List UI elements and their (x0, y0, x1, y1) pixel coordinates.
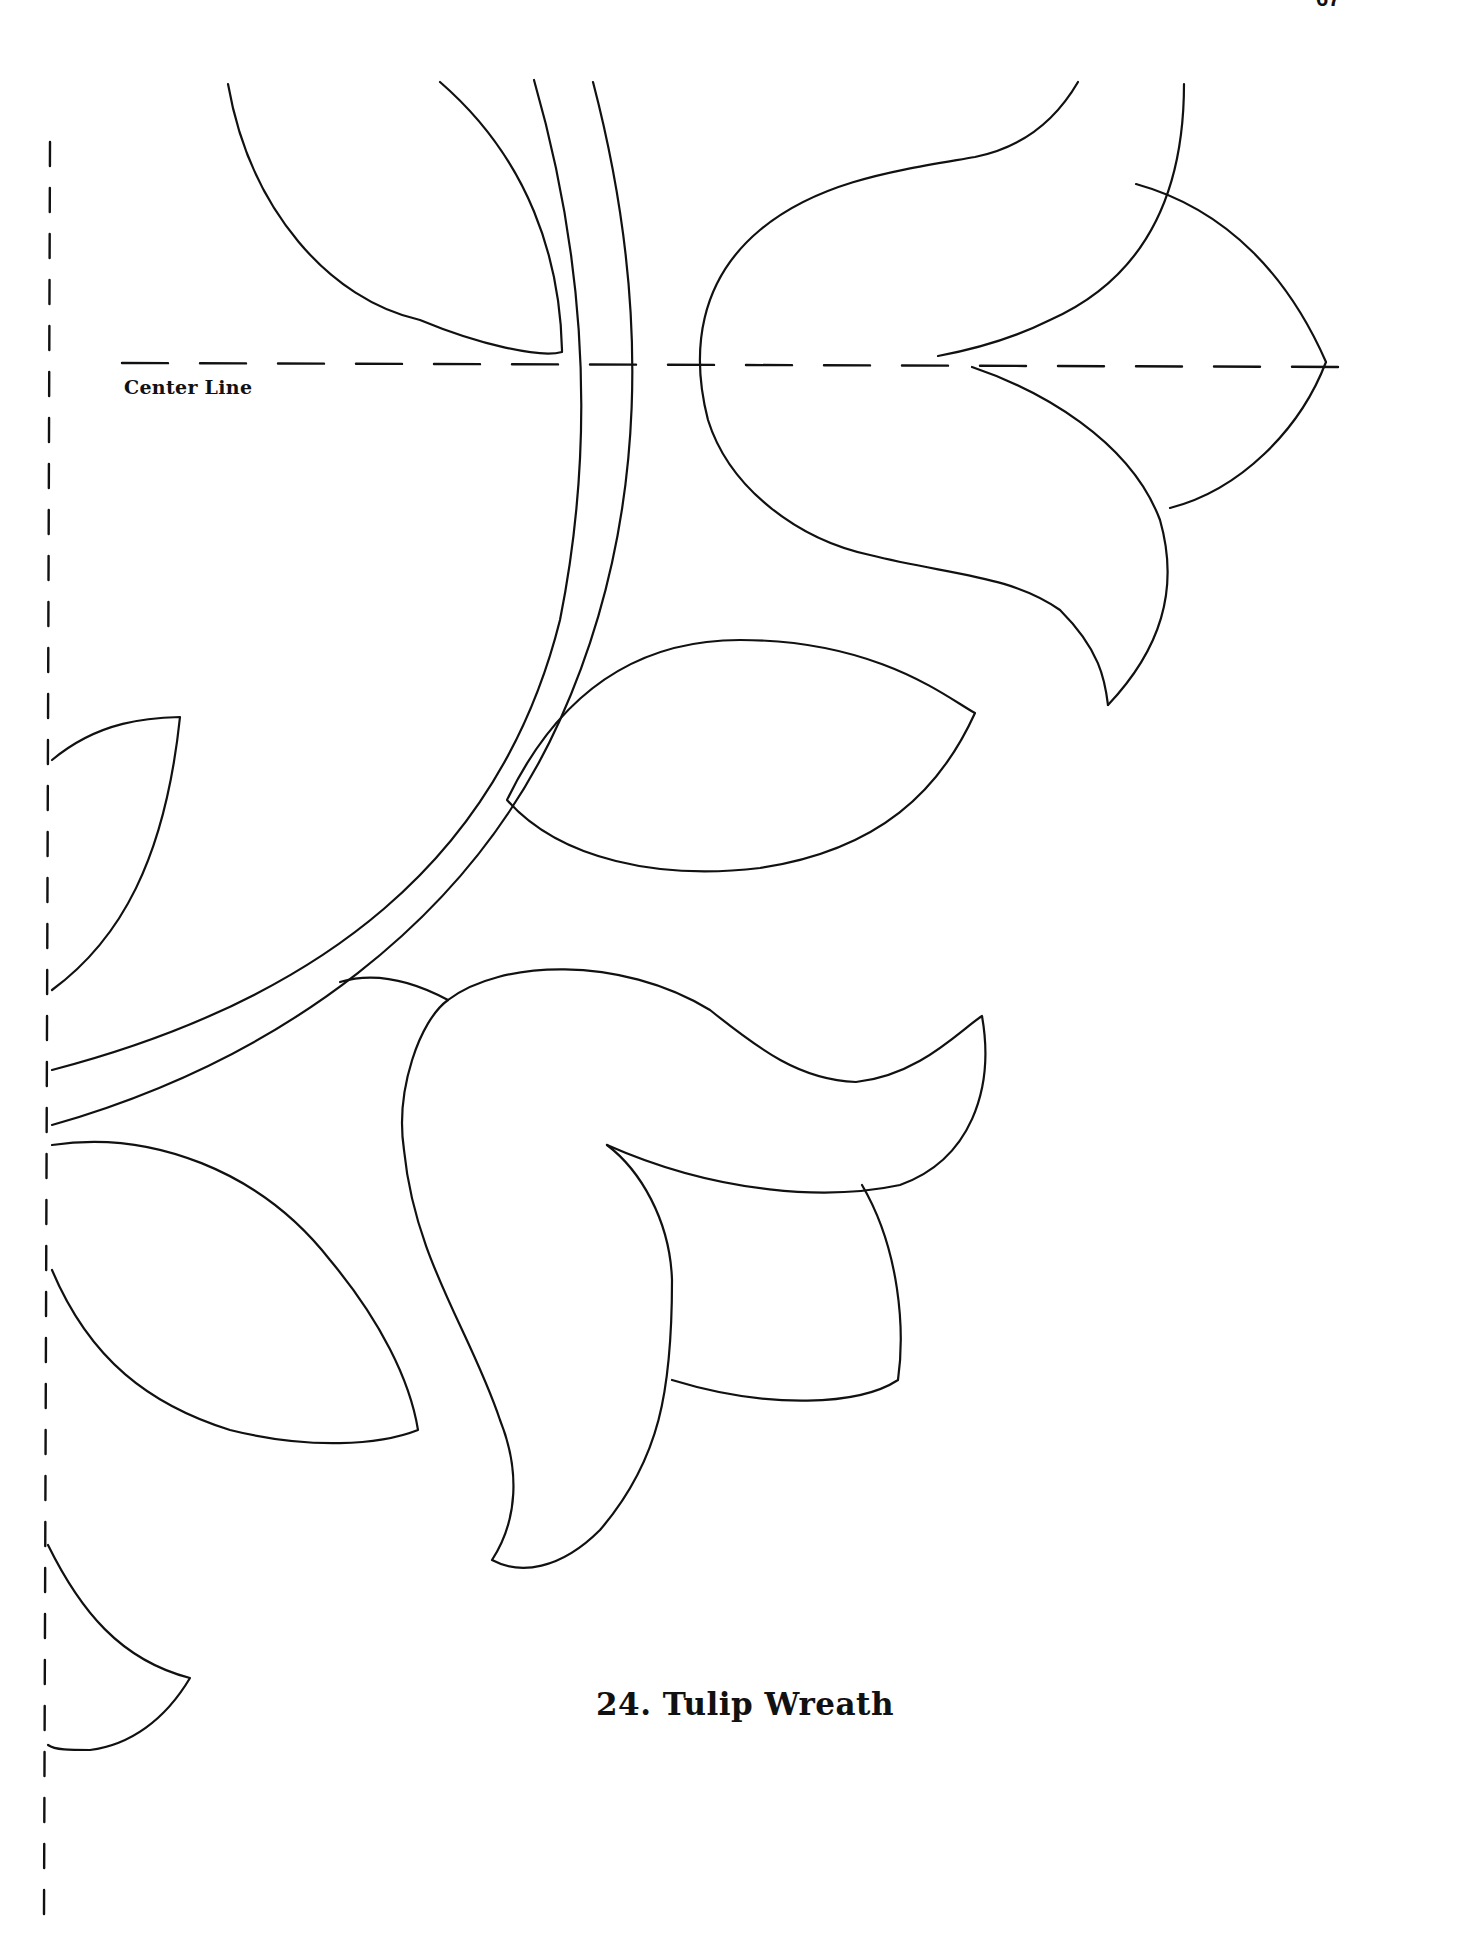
bottom-tulip-stem-curl (340, 978, 448, 1000)
tulip-top-petal-right (1136, 184, 1326, 508)
middle-leaf (507, 640, 975, 871)
center-line-label: Center Line (124, 376, 252, 398)
center-line (122, 363, 1358, 367)
left-half-leaf-upper (52, 717, 180, 990)
bottom-left-partial-petal (48, 1545, 190, 1750)
lower-left-leaf (52, 1142, 418, 1443)
bottom-tulip-right-petal (672, 1185, 901, 1401)
tulip-wreath-pattern (0, 0, 1474, 1941)
pattern-title: 24. Tulip Wreath (596, 1686, 894, 1722)
tulip-top-petal-center (938, 84, 1184, 356)
fold-line (44, 142, 50, 1915)
wreath-ring-inner (52, 80, 581, 1070)
pattern-page: 67 Center Line 24. Tulip Wreath (0, 0, 1474, 1941)
tulip-top-petal-left (700, 82, 1108, 705)
bottom-tulip-top-petal (448, 969, 985, 1192)
tulip-top-petal-lower (972, 367, 1168, 705)
upper-left-leaf (228, 82, 562, 353)
bottom-tulip-outer-petal (402, 1000, 672, 1568)
wreath-ring-outer (52, 82, 632, 1125)
